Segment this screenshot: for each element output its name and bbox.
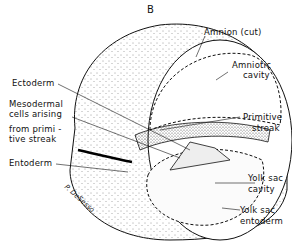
label-entoderm: Entoderm bbox=[9, 158, 52, 168]
label-ectoderm: Ectoderm bbox=[12, 78, 54, 88]
label-mesodermal-2: cells arising bbox=[9, 109, 62, 119]
label-yolk-sac-cavity-1: Yolk sac bbox=[248, 173, 283, 183]
label-mesodermal-4: tive streak bbox=[9, 134, 56, 144]
label-amniotic-cavity-2: cavity bbox=[243, 70, 270, 80]
label-primitive-streak-2: streak bbox=[252, 123, 280, 133]
embryo-diagram: B Amnion (cut) Amniotic cavity Ectoderm … bbox=[0, 0, 292, 244]
panel-label: B bbox=[147, 4, 154, 15]
label-mesodermal-3: from primi - bbox=[9, 124, 62, 134]
label-yolk-sac-entoderm-1: Yolk sac bbox=[240, 205, 275, 215]
label-mesodermal-1: Mesodermal bbox=[9, 99, 63, 109]
label-primitive-streak-1: Primitive bbox=[243, 112, 282, 122]
label-yolk-sac-entoderm-2: entoderm bbox=[240, 216, 283, 226]
label-amnion: Amnion (cut) bbox=[204, 27, 262, 37]
label-amniotic-cavity-1: Amniotic bbox=[232, 60, 271, 70]
label-yolk-sac-cavity-2: cavity bbox=[248, 184, 275, 194]
